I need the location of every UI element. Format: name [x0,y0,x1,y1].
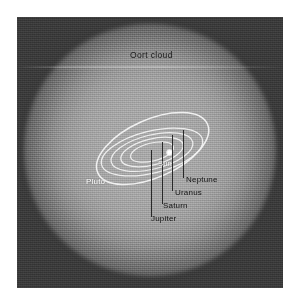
leader-line-jupiter [151,150,152,217]
figure-container: Oort cloud Sun Pluto Neptune Uranus Satu… [0,0,295,308]
leader-line-saturn [162,142,163,204]
label-pluto: Pluto [86,177,105,186]
photographic-plate: Oort cloud Sun Pluto Neptune Uranus Satu… [17,17,283,288]
label-saturn: Saturn [163,201,188,210]
leader-line-uranus [172,135,173,191]
label-oort-cloud: Oort cloud [130,50,173,60]
label-uranus: Uranus [175,188,202,197]
label-jupiter: Jupiter [151,214,176,223]
label-neptune: Neptune [186,175,218,184]
oort-cloud-glow [24,24,276,276]
label-sun: Sun [158,159,172,168]
leader-line-neptune [183,130,184,178]
